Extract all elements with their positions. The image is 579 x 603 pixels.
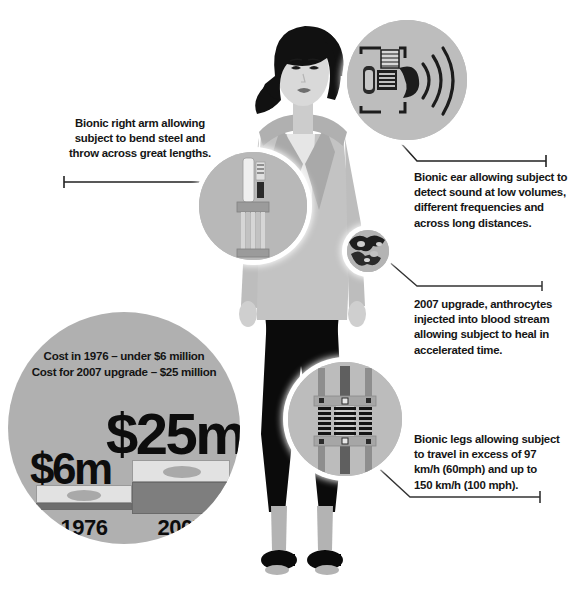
cost-line-2: Cost for 2007 upgrade – $25 million (8, 364, 240, 380)
bar-year-2007: 2007 (132, 515, 230, 541)
annotation-bionic-legs: Bionic legs allowing subject to travel i… (414, 432, 576, 493)
annotation-anthrocytes: 2007 upgrade, anthrocytes injected into … (414, 297, 576, 358)
bionic-arm-icon (199, 152, 307, 260)
callout-bionic-ear (347, 20, 467, 140)
callout-bionic-legs (288, 362, 402, 476)
bar-1976-front-face (36, 503, 132, 510)
bionic-legs-icon (288, 362, 402, 476)
callout-anthrocytes (347, 230, 389, 272)
bar-2007-oval (163, 466, 201, 478)
cost-summary-circle: Cost in 1976 – under $6 million Cost for… (8, 312, 240, 544)
bar-value-2007: $25m (106, 400, 240, 467)
infographic-canvas: Bionic right arm allowing subject to ben… (0, 0, 579, 603)
bar-1976 (36, 485, 132, 513)
callout-bionic-arm (199, 152, 307, 260)
callout-ear-inner (347, 20, 467, 140)
annotation-bionic-ear: Bionic ear allowing subject to detect so… (414, 170, 576, 231)
callout-arm-inner (199, 152, 307, 260)
bar-1976-top-face (36, 485, 132, 503)
bar-2007 (132, 460, 230, 516)
cost-headline: Cost in 1976 – under $6 million Cost for… (8, 348, 240, 380)
callout-anthrocytes-inner (347, 230, 389, 272)
bionic-ear-icon (347, 20, 467, 140)
annotation-bionic-arm: Bionic right arm allowing subject to ben… (66, 116, 214, 162)
leader-line-anthrocytes (370, 250, 579, 300)
bar-2007-top-face (132, 460, 230, 482)
anthrocytes-blood-icon (347, 230, 389, 272)
bar-1976-oval (67, 490, 101, 501)
bar-year-1976: 1976 (36, 515, 132, 541)
callout-legs-inner (288, 362, 402, 476)
bar-2007-front-face (132, 482, 230, 514)
cost-line-1: Cost in 1976 – under $6 million (8, 348, 240, 364)
